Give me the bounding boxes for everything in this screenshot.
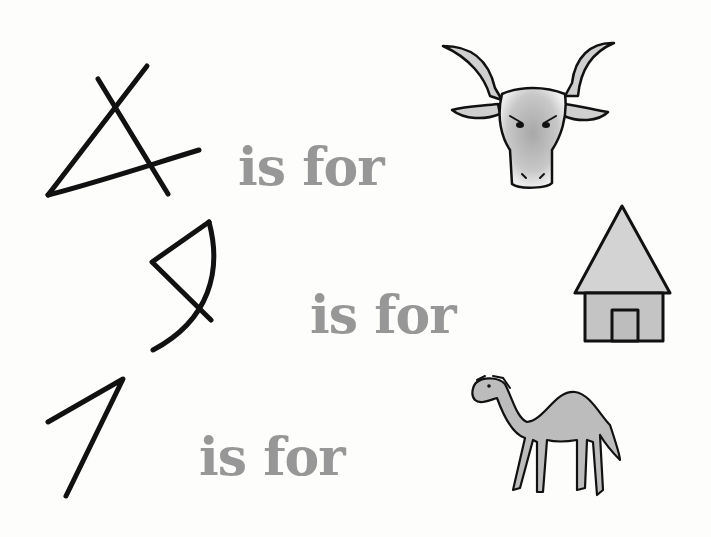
camel-icon: [465, 370, 625, 505]
is-for-text-3: is for: [199, 431, 345, 483]
